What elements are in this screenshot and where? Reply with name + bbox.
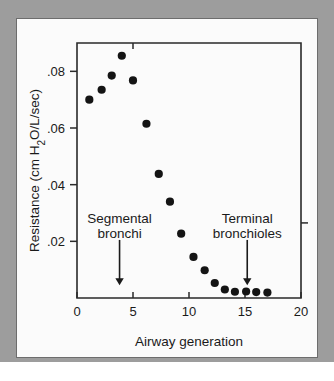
x-tick-label-0: 0 [73, 304, 80, 319]
annotation-label-line1-0: Segmental [87, 211, 152, 226]
data-point [231, 288, 239, 296]
annotation-label-line2-0: bronchi [97, 226, 141, 241]
y-tick-label-.04: .04 [47, 178, 65, 193]
figure-root: 05101520.02.04.06.08Airway generationRes… [0, 0, 334, 381]
x-tick-label-15: 15 [238, 304, 252, 319]
data-point [211, 279, 219, 287]
data-point [166, 198, 174, 206]
annotation-arrow-head-0 [115, 278, 123, 285]
y-tick-label-.08: .08 [47, 64, 65, 79]
y-tick-label-.02: .02 [47, 234, 65, 249]
data-point [85, 96, 93, 104]
data-point [118, 52, 126, 60]
data-point [108, 71, 116, 79]
x-tick-label-10: 10 [182, 304, 196, 319]
data-point [129, 76, 137, 84]
data-point [242, 287, 250, 295]
annotation-label-line1-1: Terminal [222, 211, 273, 226]
data-point [252, 288, 260, 296]
y-axis-title: Resistance (cm H2O/L/sec) [27, 89, 47, 252]
x-axis-title: Airway generation [135, 334, 243, 349]
data-point [263, 289, 271, 297]
data-point [201, 266, 209, 274]
scatter-plot: 05101520.02.04.06.08Airway generationRes… [17, 19, 319, 359]
x-tick-label-5: 5 [129, 304, 136, 319]
figure-card: 05101520.02.04.06.08Airway generationRes… [16, 18, 318, 358]
data-point [221, 285, 229, 293]
y-tick-label-.06: .06 [47, 121, 65, 136]
annotation-arrow-head-1 [243, 278, 251, 285]
data-point [189, 253, 197, 261]
data-point [142, 120, 150, 128]
data-point [177, 230, 185, 238]
x-tick-label-20: 20 [294, 304, 308, 319]
data-point [98, 86, 106, 94]
plot-frame [77, 43, 301, 298]
data-point [155, 170, 163, 178]
annotation-label-line2-1: bronchioles [213, 226, 282, 241]
